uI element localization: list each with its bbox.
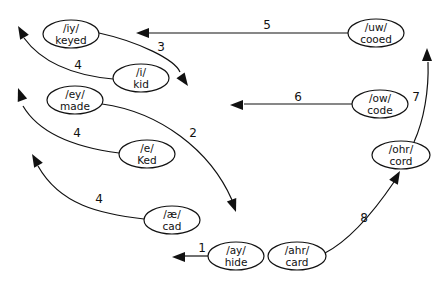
edge-label: 3: [157, 40, 165, 54]
edge-label: 7: [412, 90, 420, 104]
node-word: hide: [225, 256, 248, 268]
arrowhead-icon: [172, 252, 185, 262]
node-ow: /ow/code: [352, 90, 408, 118]
node-phoneme: /e/: [140, 142, 154, 154]
edge-uw-5: 5: [136, 18, 348, 38]
edge-label: 4: [73, 126, 81, 140]
node-phoneme: /ow/: [369, 92, 392, 104]
edge-label: 2: [189, 126, 197, 140]
node-word: Ked: [137, 154, 157, 166]
node-word: code: [367, 104, 392, 116]
arrowhead-icon: [176, 72, 192, 88]
arrowhead-icon: [28, 152, 43, 168]
edge-label: 4: [95, 192, 103, 206]
node-word: cad: [163, 220, 182, 232]
edge-ahr-8: 8: [325, 169, 404, 254]
node-phoneme: /iy/: [63, 22, 80, 34]
arrowhead-icon: [422, 48, 432, 61]
node-ay: /ay/hide: [208, 242, 264, 270]
node-word: kid: [133, 78, 149, 90]
node-phoneme: /ay/: [226, 244, 246, 256]
edge-label: 1: [198, 241, 206, 255]
node-i: /i/kid: [113, 64, 169, 92]
edge-label: 6: [294, 90, 302, 104]
node-uw: /uw/cooed: [348, 19, 404, 47]
arrowhead-icon: [389, 169, 404, 185]
node-ohr: /ohr/cord: [372, 141, 430, 169]
node-phoneme: /ey/: [65, 88, 85, 100]
edge-label: 5: [263, 18, 271, 32]
edges-layer: 1234445678: [13, 18, 432, 262]
node-phoneme: /æ/: [163, 208, 181, 220]
edge-ay-1: 1: [172, 241, 208, 262]
node-phoneme: /ahr/: [285, 244, 310, 256]
arrowhead-icon: [230, 100, 243, 110]
arrowhead-icon: [14, 24, 29, 40]
node-e: /e/Ked: [119, 140, 175, 168]
arrowhead-icon: [13, 86, 27, 102]
node-iy: /iy/keyed: [43, 20, 99, 48]
edge-label: 4: [74, 58, 82, 72]
edge-line: [38, 166, 144, 219]
diagram-canvas: 1234445678 /iy/keyed/i/kid/ey/made/e/Ked…: [0, 0, 447, 285]
arrowhead-icon: [136, 28, 149, 38]
edge-ohr-7: 7: [412, 48, 432, 142]
node-phoneme: /ohr/: [389, 143, 414, 155]
node-word: cooed: [360, 33, 392, 45]
node-ey: /ey/made: [47, 86, 103, 114]
node-word: card: [285, 256, 308, 268]
node-phoneme: /i/: [136, 66, 146, 78]
node-phoneme: /uw/: [365, 21, 388, 33]
node-word: made: [60, 100, 90, 112]
node-word: cord: [390, 155, 413, 167]
node-word: keyed: [55, 34, 87, 46]
edge-ow-6: 6: [230, 90, 352, 110]
node-ae: /æ/cad: [144, 206, 200, 234]
arrowhead-icon: [227, 198, 241, 214]
node-ahr: /ahr/card: [268, 242, 326, 270]
edge-label: 8: [360, 211, 368, 225]
vowel-shift-diagram: 1234445678 /iy/keyed/i/kid/ey/made/e/Ked…: [0, 0, 447, 285]
nodes-layer: /iy/keyed/i/kid/ey/made/e/Ked/æ/cad/ay/h…: [43, 19, 430, 270]
